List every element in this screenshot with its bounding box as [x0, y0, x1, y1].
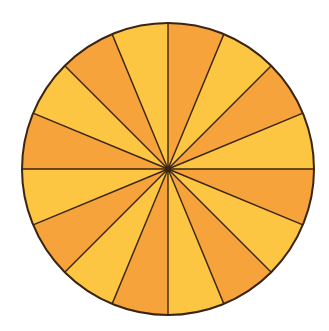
divided-circle-diagram [0, 0, 329, 331]
center-point [165, 166, 171, 172]
